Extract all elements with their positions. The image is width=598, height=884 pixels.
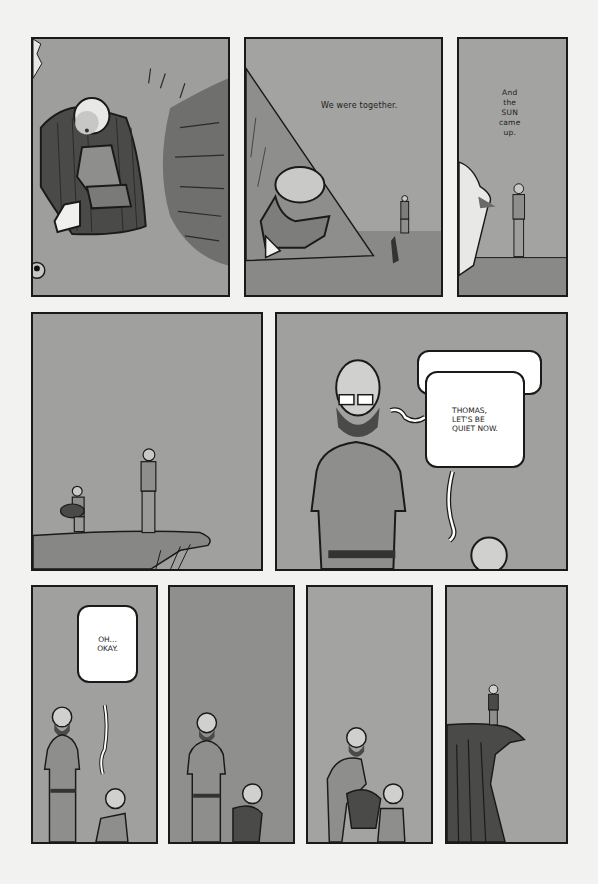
panel-1 [31,37,230,297]
caption-we-were-together: We were together. [321,100,398,111]
panel-8-art [308,587,431,842]
panel-6: OH... OKAY. [31,585,158,844]
panel-2: We were together. [244,37,443,297]
panel-2-art [246,39,441,295]
speech-bubble-father-quiet: THOMAS, LET'S BE QUIET NOW. [425,371,525,468]
panel-5: HEY DAD, MAYBE WE THOMAS, LET'S BE QUIET… [275,312,568,571]
panel-1-art [33,39,228,295]
panel-4 [31,312,263,571]
panel-3-art [459,39,566,295]
caption-sun-came-up: And the SUN came up. [499,88,520,138]
speech-text-oh-okay: OH... OKAY. [97,635,118,653]
panel-9 [445,585,568,844]
panel-3: And the SUN came up. [457,37,568,297]
panel-7-art [170,587,293,842]
panel-8 [306,585,433,844]
speech-bubble-oh-okay: OH... OKAY. [77,605,138,683]
panel-7 [168,585,295,844]
panel-4-art [33,314,261,569]
panel-9-art [447,587,566,842]
speech-text-thomas-quiet: THOMAS, LET'S BE QUIET NOW. [452,406,498,433]
